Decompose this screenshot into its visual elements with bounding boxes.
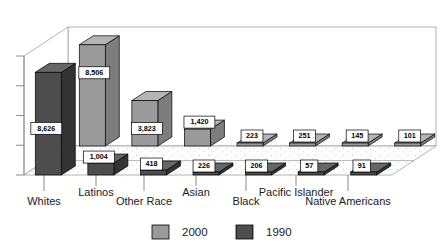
svg-text:8,626: 8,626 [37, 124, 55, 133]
chart-canvas: 8,5063,8231,420223251145101 8,6261,00441… [0, 0, 440, 252]
data-label-2000-pacific-islander: 145 [346, 130, 368, 142]
data-label-1990-native-americans: 91 [353, 160, 370, 172]
svg-text:1,420: 1,420 [190, 117, 208, 126]
category-label-latinos: Latinos [78, 186, 114, 198]
legend-swatch-2000 [152, 225, 169, 239]
data-label-1990-pacific-islander: 57 [300, 160, 317, 172]
data-label-2000-native-americans: 101 [399, 130, 421, 142]
bar-2000-whites [79, 36, 119, 146]
data-label-1990-other-race: 418 [140, 158, 162, 170]
category-label-asian: Asian [182, 186, 210, 198]
data-label-1990-whites: 8,626 [31, 122, 62, 134]
svg-text:101: 101 [404, 131, 416, 140]
category-label-whites: Whites [27, 195, 61, 207]
chart-legend: 2000 1990 [152, 225, 292, 239]
data-label-2000-latinos: 3,823 [131, 123, 162, 135]
legend-swatch-1990 [236, 225, 253, 239]
category-label-native-americans: Native Americans [305, 195, 391, 207]
bar-2000-latinos [132, 92, 172, 146]
svg-text:223: 223 [246, 131, 258, 140]
data-label-2000-black: 251 [294, 130, 316, 142]
category-axis-labels: WhitesLatinosOther RaceAsianBlackPacific… [27, 186, 391, 207]
data-label-1990-black: 206 [246, 160, 268, 172]
category-label-black: Black [233, 195, 260, 207]
y-axis-ticks [16, 56, 24, 175]
data-label-2000-whites: 8,506 [79, 67, 110, 79]
svg-text:8,506: 8,506 [85, 68, 103, 77]
data-label-1990-asian: 226 [193, 160, 215, 172]
svg-text:57: 57 [305, 161, 313, 170]
legend-label-1990: 1990 [266, 226, 292, 238]
svg-text:1,004: 1,004 [90, 152, 108, 161]
legend-label-2000: 2000 [182, 226, 208, 238]
svg-text:251: 251 [299, 131, 311, 140]
data-label-1990-latinos: 1,004 [83, 151, 114, 163]
back-wall [68, 27, 436, 146]
category-label-other-race: Other Race [116, 195, 172, 207]
svg-text:206: 206 [251, 161, 263, 170]
data-label-2000-asian: 223 [241, 130, 263, 142]
svg-text:91: 91 [358, 161, 366, 170]
chart-3d-grouped-bar: 8,5063,8231,420223251145101 8,6261,00441… [0, 0, 440, 252]
bar-1990-whites [35, 63, 75, 175]
data-label-2000-other-race: 1,420 [184, 116, 215, 128]
svg-text:3,823: 3,823 [138, 124, 156, 133]
svg-text:145: 145 [351, 131, 363, 140]
svg-text:226: 226 [198, 161, 210, 170]
svg-text:418: 418 [145, 159, 157, 168]
